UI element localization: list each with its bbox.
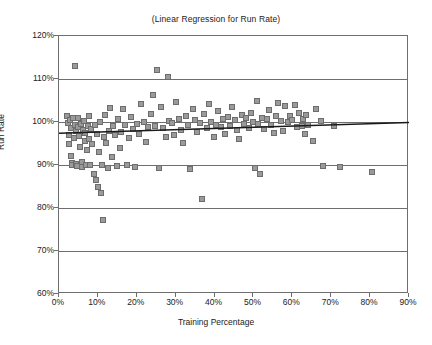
x-axis-tick-mark	[330, 293, 331, 297]
x-axis-tick-mark	[408, 293, 409, 297]
scatter-chart: (Linear Regression for Run Rate) Run Rat…	[0, 0, 432, 345]
regression-trendline	[59, 36, 407, 292]
x-axis-tick-mark	[58, 293, 59, 297]
x-axis-tick-mark	[252, 293, 253, 297]
x-axis-tick-mark	[291, 293, 292, 297]
x-axis-tick-mark	[369, 293, 370, 297]
x-axis-tick-mark	[175, 293, 176, 297]
x-axis-tick-mark	[97, 293, 98, 297]
plot-area	[58, 35, 408, 293]
x-axis-tick-mark	[214, 293, 215, 297]
x-axis-tick-mark	[136, 293, 137, 297]
